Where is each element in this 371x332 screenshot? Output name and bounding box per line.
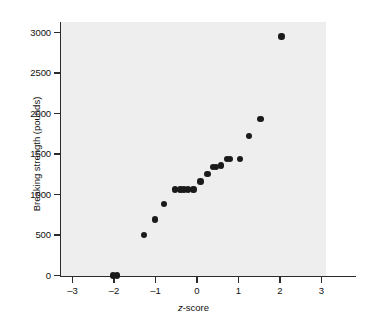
data-point [114,272,120,278]
data-point [204,171,210,177]
x-axis-tick-label: 1 [226,286,252,296]
x-axis-title: z-score [61,302,326,313]
data-point [190,186,196,192]
x-axis-tick [238,277,239,283]
y-axis-tick [54,234,60,235]
data-point [237,156,243,162]
x-axis-tick-label: –2 [101,286,127,296]
y-axis-tick-label: 500 [11,230,51,240]
data-point [227,156,233,162]
x-axis-tick [321,277,322,283]
y-axis-tick [54,275,60,276]
y-axis-tick [54,153,60,154]
y-axis-tick [54,194,60,195]
y-axis-tick [54,72,60,73]
y-axis-title: Breaking strength (pounds) [32,54,42,254]
x-axis-tick-label: 2 [267,286,293,296]
y-axis-tick [54,32,60,33]
data-point [197,178,203,184]
x-axis-title-rest: -score [183,302,209,313]
x-axis-line [60,276,356,277]
y-axis-tick-label: 0 [11,271,51,281]
x-axis-tick [155,277,156,283]
data-point [218,162,224,168]
normal-probability-plot-figure: 050010001500200025003000 –3–2–10123 Brea… [0,0,371,332]
x-axis-tick [279,277,280,283]
y-axis-tick-label: 2500 [11,68,51,78]
data-point [278,33,284,39]
x-axis-tick [72,277,73,283]
x-axis-tick [196,277,197,283]
x-axis-tick-label: 3 [309,286,335,296]
x-axis-tick-label: –3 [60,286,86,296]
data-point [257,116,263,122]
x-axis-tick-label: 0 [184,286,210,296]
y-axis-line [60,22,61,277]
y-axis-tick [54,113,60,114]
plot-area [61,22,326,276]
x-axis-tick-label: –1 [143,286,169,296]
data-point [152,216,158,222]
y-axis-tick-label: 3000 [11,28,51,38]
